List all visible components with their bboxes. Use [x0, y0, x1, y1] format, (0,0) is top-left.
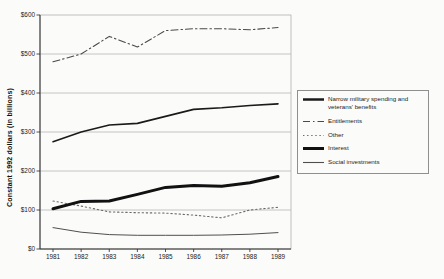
x-tick-label: 1983 [102, 253, 117, 260]
legend-label: Entitlements [328, 117, 362, 125]
legend-label: Social investments [328, 158, 380, 166]
legend-item-3: Interest [302, 144, 425, 152]
x-tick-label: 1982 [74, 253, 89, 260]
y-tick-label: $100 [21, 206, 36, 213]
legend-label: Narrow military spending and veterans' b… [328, 95, 425, 111]
x-tick-label: 1989 [271, 253, 286, 260]
y-axis-title: Constant 1992 dollars (in billions) [6, 88, 13, 207]
y-tick-label: $0 [28, 245, 36, 252]
y-tick-label: $200 [21, 167, 36, 174]
y-axis-labels: $0$100$200$300$400$500$600 [21, 11, 36, 252]
series-line-0 [53, 104, 278, 142]
y-tick-label: $600 [21, 11, 36, 18]
legend-swatch [302, 159, 325, 166]
series-line-4 [53, 228, 278, 236]
series-lines [53, 28, 278, 236]
x-tick-label: 1987 [215, 253, 230, 260]
legend-label: Other [328, 131, 343, 139]
legend-swatch [302, 132, 325, 139]
legend-item-2: Other [302, 131, 425, 139]
y-tick-label: $500 [21, 50, 36, 57]
budget-line-chart-figure: $0$100$200$300$400$500$600 1981198219831… [0, 0, 444, 279]
y-axis-ticks [37, 15, 41, 249]
x-tick-label: 1984 [130, 253, 145, 260]
legend-swatch [302, 118, 325, 125]
legend-item-1: Entitlements [302, 117, 425, 125]
y-tick-label: $400 [21, 89, 36, 96]
series-line-2 [53, 201, 278, 218]
x-axis-labels: 198119821983198419851986198719881989 [46, 253, 286, 260]
x-tick-label: 1985 [158, 253, 173, 260]
x-tick-label: 1986 [187, 253, 202, 260]
legend-swatch [302, 96, 325, 103]
legend-swatch [302, 145, 325, 152]
legend-item-0: Narrow military spending and veterans' b… [302, 95, 425, 111]
legend-label: Interest [328, 144, 349, 152]
series-line-1 [53, 28, 278, 62]
legend-item-4: Social investments [302, 158, 425, 166]
legend: Narrow military spending and veterans' b… [297, 90, 429, 174]
x-tick-label: 1981 [46, 253, 61, 260]
y-tick-label: $300 [21, 128, 36, 135]
x-tick-label: 1988 [243, 253, 258, 260]
series-line-3 [53, 177, 278, 209]
